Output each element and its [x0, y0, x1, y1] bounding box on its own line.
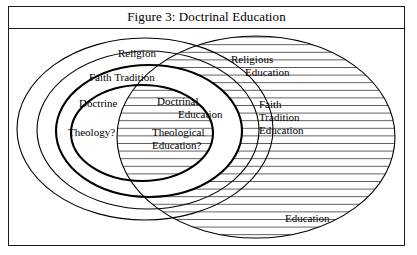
figure-title-bar: Figure 3: Doctrinal Education: [8, 6, 405, 29]
label-religious-education-line2: Education: [245, 66, 290, 79]
label-doctrinal-education-line1: Doctrinal: [157, 95, 199, 108]
label-faith-tradition-education-line2: Tradition: [259, 111, 300, 124]
figure-container: Figure 3: Doctrinal Education: [0, 0, 417, 255]
label-doctrinal-education-line2: Education: [178, 108, 223, 121]
page-title: Figure 3: Doctrinal Education: [127, 9, 286, 25]
label-doctrine: Doctrine: [79, 98, 117, 110]
label-faith-tradition: Faith Tradition: [89, 72, 155, 84]
label-theological-education-line2: Education?: [152, 139, 201, 152]
label-theology: Theology?: [68, 127, 115, 139]
label-theological-education-line1: Theological: [152, 126, 205, 139]
label-religious-education-line1: Religious: [231, 53, 273, 66]
label-faith-tradition-education-line1: Faith: [259, 98, 282, 111]
label-education: Education: [285, 213, 330, 225]
label-faith-tradition-education-line3: Education: [259, 124, 304, 137]
label-religion: Religion: [118, 48, 156, 60]
